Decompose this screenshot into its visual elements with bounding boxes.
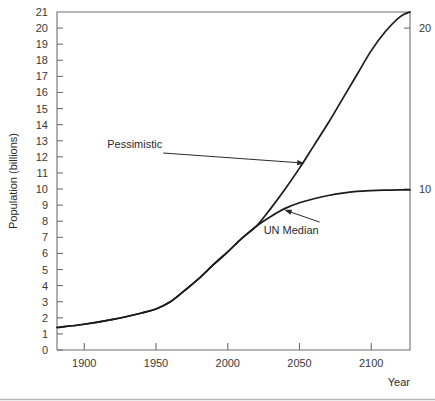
data-series-group (57, 12, 410, 327)
right-y-tick-label: 20 (419, 22, 431, 34)
annotation-arrowhead (284, 210, 292, 215)
annotation-label: Pessimistic (107, 138, 163, 150)
y-tick-label: 18 (36, 54, 48, 66)
y-tick-label: 8 (42, 215, 48, 227)
x-tick-label: 2050 (287, 357, 311, 369)
right-y-tick-label: 10 (419, 183, 431, 195)
y-tick-label: 19 (36, 38, 48, 50)
x-tick-label: 2100 (359, 357, 383, 369)
y-tick-label: 12 (36, 151, 48, 163)
y-tick-label: 17 (36, 70, 48, 82)
right-y-axis: 1020 (404, 22, 431, 195)
axes-box (57, 12, 410, 350)
plot-frame (57, 12, 410, 350)
x-axis-title: Year (388, 376, 411, 388)
y-tick-label: 1 (42, 328, 48, 340)
y-tick-label: 9 (42, 199, 48, 211)
y-tick-label: 16 (36, 86, 48, 98)
y-tick-label: 3 (42, 296, 48, 308)
y-tick-label: 11 (37, 167, 48, 179)
population-projection-figure: 0123456789101112131415161718192021 1020 … (0, 0, 435, 401)
y-tick-label: 4 (42, 280, 48, 292)
annotation-label: UN Median (264, 224, 319, 236)
y-tick-label: 7 (42, 231, 48, 243)
series-line-un-median (57, 190, 410, 328)
x-tick-label: 1900 (72, 357, 96, 369)
y-tick-label: 10 (36, 183, 48, 195)
y-tick-label: 21 (36, 6, 48, 18)
y-tick-label: 2 (42, 312, 48, 324)
y-tick-label: 15 (36, 103, 48, 115)
y-tick-label: 13 (36, 135, 48, 147)
y-tick-label: 14 (36, 119, 48, 131)
chart-canvas: 0123456789101112131415161718192021 1020 … (0, 0, 435, 401)
series-line-pessimistic (57, 12, 410, 327)
y-axis-title: Population (billions) (7, 133, 19, 229)
y-tick-label: 6 (42, 247, 48, 259)
y-tick-label: 0 (42, 344, 48, 356)
y-tick-label: 5 (42, 264, 48, 276)
x-tick-label: 1950 (144, 357, 168, 369)
x-axis: 19001950200020502100 (72, 343, 383, 369)
annotation-leader-line (288, 211, 320, 222)
y-tick-label: 20 (36, 22, 48, 34)
annotation-leader-line (163, 153, 300, 163)
y-axis: 0123456789101112131415161718192021 (36, 6, 63, 356)
x-tick-label: 2000 (216, 357, 240, 369)
annotation-group: PessimisticUN Median (107, 138, 319, 236)
